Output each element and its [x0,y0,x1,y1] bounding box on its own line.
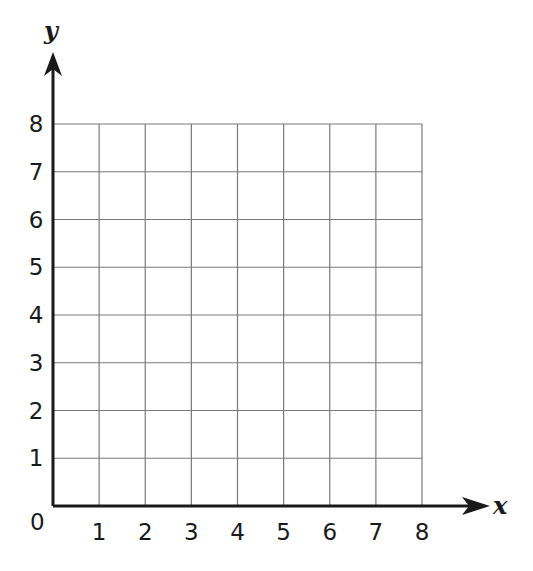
y-tick-label: 1 [29,445,44,471]
x-tick-label: 8 [415,519,430,545]
grid-lines [53,124,422,506]
x-tick-label: 7 [369,519,384,545]
origin-label: 0 [30,509,45,535]
y-tick-label: 2 [29,398,44,424]
y-tick-label: 8 [29,111,44,137]
y-axis-label: y [43,16,60,45]
y-tick-label: 6 [29,207,44,233]
x-axis-label: x [492,491,508,520]
x-tick-label: 2 [138,519,153,545]
coordinate-grid: 1234567812345678 x y 0 [0,0,533,571]
x-tick-label: 1 [92,519,107,545]
x-tick-label: 3 [184,519,199,545]
y-tick-label: 4 [29,302,44,328]
x-tick-label: 6 [322,519,337,545]
axes [44,52,490,515]
y-tick-label: 5 [29,254,44,280]
x-tick-label: 5 [276,519,291,545]
x-tick-label: 4 [230,519,245,545]
y-tick-label: 7 [29,159,44,185]
y-tick-label: 3 [29,350,44,376]
tick-labels: 1234567812345678 [29,111,430,545]
